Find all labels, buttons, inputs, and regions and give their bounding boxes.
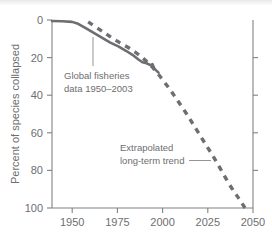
x-tick-labels: 1950 1975 2000 2025 2050 <box>60 216 265 228</box>
fisheries-data-line <box>52 21 159 73</box>
y-tick-label-100: 100 <box>25 202 43 214</box>
x-axis-ticks <box>72 208 253 213</box>
x-tick-label-2025: 2025 <box>196 216 220 228</box>
y-tick-labels: 0 20 40 60 80 100 <box>25 14 43 214</box>
extrapolated-annotation-line1: Extrapolated <box>120 142 173 153</box>
x-tick-label-2050: 2050 <box>241 216 265 228</box>
y-tick-label-80: 80 <box>31 164 43 176</box>
y-tick-label-60: 60 <box>31 127 43 139</box>
x-tick-label-2000: 2000 <box>150 216 174 228</box>
extrapolated-trend-line <box>88 22 245 208</box>
axis-frame <box>52 20 253 208</box>
fisheries-annotation-line1: Global fisheries <box>64 70 130 81</box>
extrapolated-annotation-line2: long-term trend <box>120 155 184 166</box>
y-tick-label-20: 20 <box>31 52 43 64</box>
fisheries-annotation: Global fisheries data 1950–2003 <box>64 37 133 94</box>
fisheries-annotation-line2: data 1950–2003 <box>64 83 133 94</box>
species-collapse-chart: 0 20 40 60 80 100 1950 1975 2000 2025 20… <box>0 0 272 252</box>
x-tick-label-1975: 1975 <box>105 216 129 228</box>
chart-figure: 0 20 40 60 80 100 1950 1975 2000 2025 20… <box>0 0 272 252</box>
y-tick-label-0: 0 <box>37 14 43 26</box>
y-tick-label-40: 40 <box>31 89 43 101</box>
y-axis-title: Percent of species collapsed <box>9 44 21 184</box>
x-tick-label-1950: 1950 <box>60 216 84 228</box>
extrapolated-annotation: Extrapolated long-term trend <box>120 142 211 166</box>
